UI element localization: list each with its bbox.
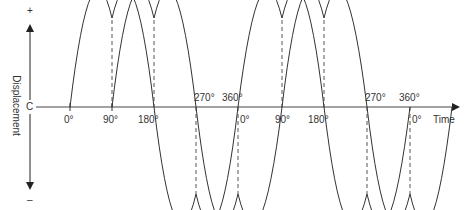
tick-90b: 90° <box>275 114 290 125</box>
tick-0: 0° <box>64 114 74 125</box>
wave-a <box>70 0 410 210</box>
tick-360: 360° <box>222 92 243 103</box>
minus-sign: – <box>27 194 33 205</box>
wave-b <box>112 0 452 210</box>
tick-0b: 0° <box>240 114 250 125</box>
y-axis-label: Displacement <box>11 75 22 136</box>
plus-sign: + <box>27 5 33 16</box>
tick-0c: 0° <box>412 114 422 125</box>
tick-270: 270° <box>194 92 215 103</box>
x-axis-label: Time <box>433 114 455 125</box>
tick-360b: 360° <box>399 92 420 103</box>
tick-180b: 180° <box>308 114 329 125</box>
tick-180: 180° <box>138 114 159 125</box>
tick-90: 90° <box>103 114 118 125</box>
tick-270b: 270° <box>365 92 386 103</box>
wave-diagram <box>0 0 468 210</box>
center-label: C <box>26 101 33 112</box>
